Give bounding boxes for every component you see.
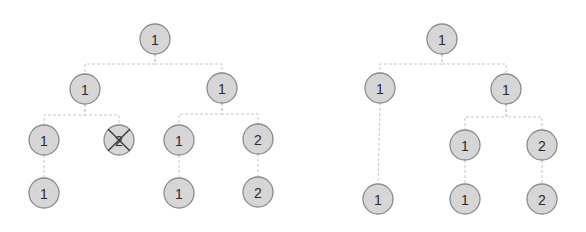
tree-node: 1	[29, 125, 59, 155]
deleted-tree-node: 2	[104, 125, 134, 155]
node-label: 1	[40, 186, 48, 202]
node-label: 1	[374, 192, 382, 208]
node-label: 1	[461, 192, 469, 208]
node-label: 2	[538, 192, 546, 208]
tree-node: 1	[427, 24, 457, 54]
tree-node: 1	[140, 24, 170, 54]
tree-node: 1	[491, 74, 521, 104]
node-label: 2	[254, 185, 262, 201]
tree-node: 2	[527, 184, 557, 214]
node-label: 2	[254, 132, 262, 148]
tree-edge	[222, 103, 258, 124]
tree-edge	[442, 54, 506, 74]
tree-diagram: 111121211211112112	[0, 0, 586, 232]
node-label: 1	[175, 133, 183, 149]
tree-node: 2	[243, 177, 273, 207]
node-label: 1	[218, 81, 226, 97]
tree-node: 1	[164, 178, 194, 208]
tree-node: 1	[363, 184, 393, 214]
tree-node: 1	[207, 73, 237, 103]
node-label: 1	[151, 32, 159, 48]
nodes: 111121211211112112	[29, 24, 557, 214]
tree-edge	[378, 103, 380, 184]
tree-node: 1	[29, 178, 59, 208]
tree-edge	[85, 54, 155, 74]
tree-node: 1	[450, 184, 480, 214]
tree-node: 1	[70, 74, 100, 104]
tree-edge	[380, 54, 442, 73]
tree-node: 1	[164, 125, 194, 155]
tree-node: 2	[243, 124, 273, 154]
node-label: 1	[175, 186, 183, 202]
edges	[44, 54, 542, 184]
tree-edge	[465, 104, 506, 130]
tree-node: 1	[450, 130, 480, 160]
node-label: 2	[538, 138, 546, 154]
node-label: 1	[81, 82, 89, 98]
tree-node: 2	[527, 130, 557, 160]
node-label: 1	[461, 138, 469, 154]
node-label: 1	[376, 81, 384, 97]
node-label: 1	[502, 82, 510, 98]
tree-node: 1	[365, 73, 395, 103]
tree-edge	[85, 104, 119, 125]
node-label: 1	[438, 32, 446, 48]
tree-edge	[44, 104, 85, 125]
tree-edge	[179, 103, 222, 125]
tree-edge	[506, 104, 542, 130]
tree-edge	[155, 54, 222, 73]
node-label: 1	[40, 133, 48, 149]
